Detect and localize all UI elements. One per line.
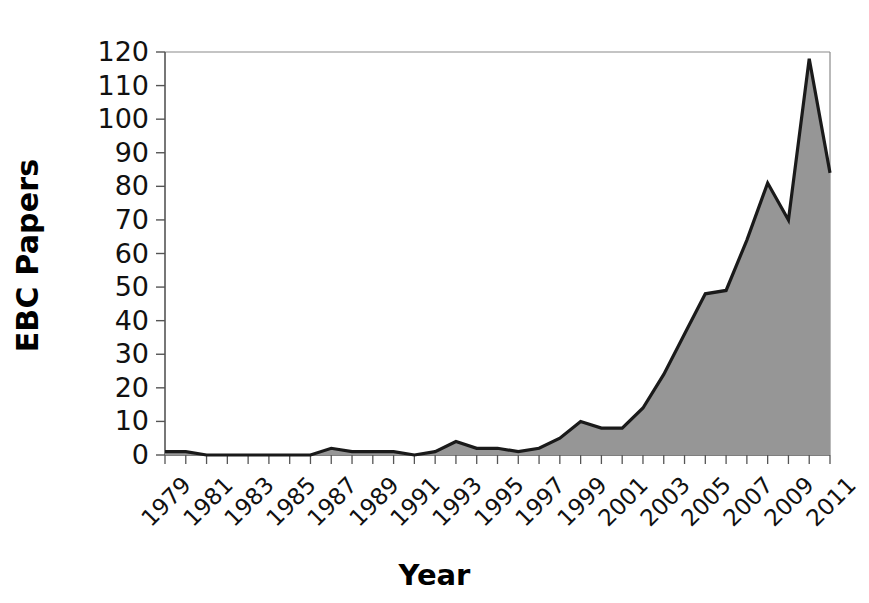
y-tick-label: 100 [97,105,149,132]
y-tick-label: 70 [115,206,149,233]
y-tick-label: 90 [115,139,149,166]
y-tick-label: 10 [115,407,149,434]
y-tick-label: 20 [115,374,149,401]
y-tick-label: 50 [115,273,149,300]
chart-figure: EBC Papers 1201101009080706050403020100 … [0,0,869,603]
x-axis-title: Year [0,558,869,592]
y-tick-label: 60 [115,240,149,267]
y-tick-label: 30 [115,340,149,367]
y-axis-title: EBC Papers [4,60,52,450]
y-tick-label: 120 [97,38,149,65]
y-tick-label: 110 [97,72,149,99]
area-fill-ebc-papers [165,59,830,455]
y-tick-marks [156,52,165,455]
y-tick-label: 80 [115,172,149,199]
y-tick-label: 40 [115,307,149,334]
y-axis-title-text: EBC Papers [11,158,46,352]
y-tick-label: 0 [132,441,149,468]
